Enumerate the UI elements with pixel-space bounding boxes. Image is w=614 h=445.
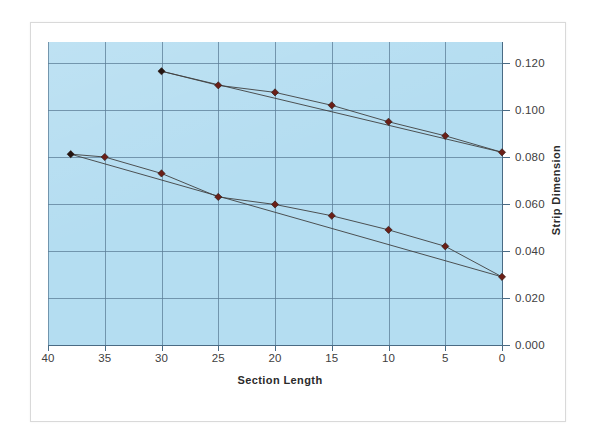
gridline-v-7	[445, 42, 446, 345]
y-tick-label-0.100: 0.100	[515, 104, 545, 116]
x-tick-6	[389, 345, 390, 351]
y-axis-title: Strip Dimension	[550, 145, 562, 235]
x-tick-7	[445, 345, 446, 351]
y-tick-2	[502, 251, 510, 252]
x-tick-label-15: 15	[325, 352, 338, 364]
x-tick-label-40: 40	[41, 352, 54, 364]
x-axis-title: Section Length	[0, 374, 560, 386]
y-tick-label-0.020: 0.020	[515, 292, 545, 304]
y-tick-3	[502, 204, 510, 205]
x-tick-5	[332, 345, 333, 351]
x-tick-0	[48, 345, 49, 351]
gridline-v-6	[389, 42, 390, 345]
x-tick-label-10: 10	[382, 352, 395, 364]
x-tick-label-30: 30	[155, 352, 168, 364]
y-tick-label-0.000: 0.000	[515, 339, 545, 351]
y-tick-label-0.060: 0.060	[515, 198, 545, 210]
x-tick-2	[162, 345, 163, 351]
x-tick-8	[502, 345, 503, 351]
x-axis-line	[48, 345, 510, 346]
y-tick-1	[502, 298, 510, 299]
y-axis-line	[502, 42, 503, 346]
x-tick-label-5: 5	[442, 352, 449, 364]
y-tick-4	[502, 157, 510, 158]
gridline-v-3	[218, 42, 219, 345]
x-tick-label-25: 25	[212, 352, 225, 364]
x-tick-label-20: 20	[268, 352, 281, 364]
chart-area: 0.0000.0200.0400.0600.0800.1000.120 4035…	[0, 0, 614, 445]
y-tick-5	[502, 110, 510, 111]
y-tick-6	[502, 63, 510, 64]
x-tick-1	[105, 345, 106, 351]
x-tick-3	[218, 345, 219, 351]
y-tick-label-0.040: 0.040	[515, 245, 545, 257]
gridline-v-5	[332, 42, 333, 345]
gridline-v-1	[105, 42, 106, 345]
y-tick-label-0.120: 0.120	[515, 57, 545, 69]
gridline-v-2	[162, 42, 163, 345]
y-tick-0	[502, 345, 510, 346]
gridline-v-0	[48, 42, 49, 345]
y-tick-label-0.080: 0.080	[515, 151, 545, 163]
gridline-v-4	[275, 42, 276, 345]
x-tick-label-35: 35	[98, 352, 111, 364]
x-tick-4	[275, 345, 276, 351]
x-tick-label-0: 0	[499, 352, 506, 364]
